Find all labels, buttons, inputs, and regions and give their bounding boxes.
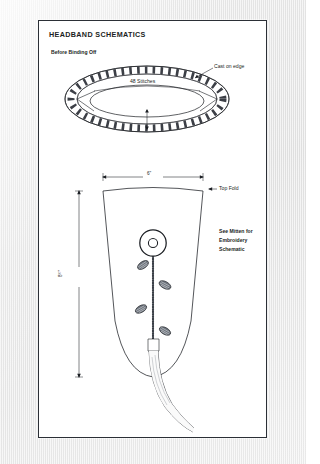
top-fold-arrowhead (208, 187, 212, 191)
panel-height-arrow-bottom (77, 374, 81, 378)
panel-width-arrow-left (102, 175, 106, 179)
motif-bloom-inner-ring (148, 238, 157, 247)
panel-width-arrow-right (200, 175, 204, 179)
tassel-collar (148, 339, 159, 351)
panel-diagram-art (39, 21, 266, 437)
panel-height-arrow-top (77, 190, 81, 194)
schematic-page: HEADBAND SCHEMATICS Before Binding Off C… (38, 20, 267, 438)
